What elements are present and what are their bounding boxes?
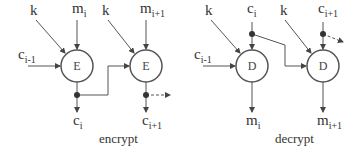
encrypt-node-label: E: [67, 59, 87, 74]
plaintext-label: mi+1: [140, 1, 165, 19]
decrypt-node-label: D: [313, 59, 333, 74]
encrypt-node-label: E: [136, 59, 156, 74]
ciphertext-input-label: ci+1: [318, 1, 338, 19]
key-label: k: [102, 3, 110, 18]
plaintext-output-label: mi+1: [317, 113, 342, 131]
key-label: k: [205, 3, 213, 18]
ciphertext-label: ci+1: [142, 113, 162, 131]
key-label: k: [30, 3, 38, 18]
ciphertext-label: ci: [73, 113, 82, 131]
decrypt-node-label: D: [242, 59, 262, 74]
ciphertext-input-label: ci: [247, 1, 256, 19]
plaintext-label: mi: [72, 1, 86, 19]
key-label: k: [280, 3, 288, 18]
plaintext-output-label: mi: [246, 113, 260, 131]
prev-cipher-label: ci-1: [18, 47, 36, 65]
prev-cipher-label: ci-1: [194, 47, 212, 65]
encrypt-caption: encrypt: [99, 131, 138, 147]
decrypt-caption: decrypt: [275, 131, 314, 147]
